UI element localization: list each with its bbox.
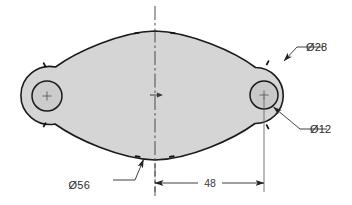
dimension-lobe-diameter: Ø56 — [69, 160, 144, 192]
dimension-label-d28: Ø28 — [306, 41, 327, 53]
leader-arrow-d28 — [284, 47, 297, 61]
left-hole — [32, 81, 62, 111]
dimension-label-d56: Ø56 — [69, 179, 90, 191]
leader-arrow-d56 — [135, 160, 144, 181]
dimension-hole-diameter: Ø12 — [274, 107, 332, 135]
dimension-label-48: 48 — [204, 177, 216, 189]
dimension-outer-arc-diameter: Ø28 — [284, 41, 327, 61]
cad-drawing-svg: Ø28 Ø12 Ø56 48 — [0, 0, 352, 205]
leader-arrow-d12 — [274, 107, 301, 129]
technical-drawing-canvas: Ø28 Ø12 Ø56 48 — [0, 0, 352, 205]
dimension-label-d12: Ø12 — [310, 123, 331, 135]
